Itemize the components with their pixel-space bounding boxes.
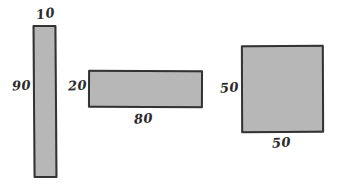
diagram-canvas: 10 90 20 80 50 50: [0, 0, 342, 194]
shape-square[interactable]: [241, 45, 324, 133]
label-tall-width: 10: [35, 6, 56, 22]
label-wide-height: 20: [68, 79, 88, 93]
label-square-height: 50: [220, 80, 240, 94]
label-tall-height: 90: [12, 79, 32, 93]
label-wide-width: 80: [134, 111, 154, 125]
shape-wide-flat-rectangle[interactable]: [88, 70, 203, 108]
label-square-width: 50: [272, 135, 292, 149]
shape-tall-narrow-rectangle[interactable]: [32, 25, 57, 178]
